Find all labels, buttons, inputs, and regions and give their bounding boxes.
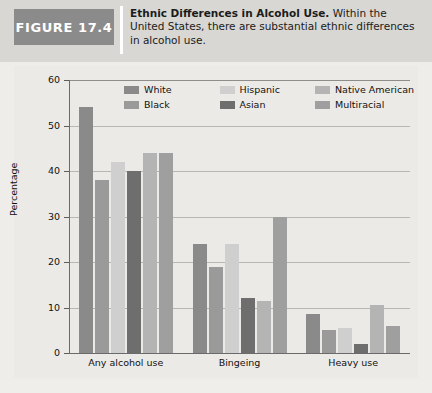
figure-number-badge: FIGURE 17.4: [14, 9, 114, 45]
legend-label: Native American: [335, 84, 414, 95]
bar-black: [322, 330, 336, 353]
y-axis-tick-label: 30: [34, 211, 60, 222]
bar-hispanic: [225, 244, 239, 353]
y-axis-tick-label: 0: [34, 347, 60, 358]
bar-multiracial: [386, 326, 400, 353]
bar-asian: [127, 171, 141, 353]
figure-header: FIGURE 17.4 Ethnic Differences in Alcoho…: [0, 0, 432, 62]
bar-black: [209, 267, 223, 353]
bar-multiracial: [159, 153, 173, 353]
figure-page: FIGURE 17.4 Ethnic Differences in Alcoho…: [0, 0, 432, 393]
caption-title: Ethnic Differences in Alcohol Use.: [130, 7, 329, 19]
bar-asian: [241, 298, 255, 353]
legend-item-hispanic: Hispanic: [220, 84, 314, 95]
y-axis-tick-label: 60: [34, 74, 60, 85]
legend-swatch: [220, 86, 235, 94]
legend-item-asian: Asian: [220, 99, 314, 110]
legend-item-black: Black: [124, 99, 218, 110]
legend-item-multiracial: Multiracial: [315, 99, 414, 110]
y-axis-tick-label: 40: [34, 165, 60, 176]
legend-swatch: [315, 86, 330, 94]
bar-group: [183, 80, 297, 353]
x-axis-label: Heavy use: [296, 357, 410, 368]
legend-item-white: White: [124, 84, 218, 95]
legend-item-native-american: Native American: [315, 84, 414, 95]
bar-group: [296, 80, 410, 353]
y-axis-tick-label: 10: [34, 302, 60, 313]
bar-native-american: [143, 153, 157, 353]
bar-native-american: [370, 305, 384, 353]
bar-asian: [354, 344, 368, 353]
bar-groups: [69, 80, 410, 353]
legend-swatch: [124, 101, 139, 109]
y-axis-tick-label: 20: [34, 256, 60, 267]
legend-label: Asian: [240, 99, 266, 110]
bar-hispanic: [338, 328, 352, 353]
legend-label: Black: [144, 99, 170, 110]
x-axis-label: Bingeing: [183, 357, 297, 368]
bar-white: [306, 314, 320, 353]
bar-multiracial: [273, 217, 287, 354]
bar-group: [69, 80, 183, 353]
footer-band: [0, 380, 432, 393]
y-axis-tick-label: 50: [34, 120, 60, 131]
bar-white: [193, 244, 207, 353]
plot-outer: Percentage 0102030405060 Any alcohol use…: [14, 66, 418, 378]
legend-swatch: [220, 101, 235, 109]
bar-black: [95, 180, 109, 353]
legend-label: Hispanic: [240, 84, 280, 95]
legend-label: Multiracial: [335, 99, 384, 110]
figure-caption: Ethnic Differences in Alcohol Use. Withi…: [130, 7, 422, 47]
figure-number-label: FIGURE 17.4: [15, 20, 112, 35]
bar-hispanic: [111, 162, 125, 353]
chart-legend: WhiteHispanicNative AmericanBlackAsianMu…: [124, 84, 414, 110]
bar-native-american: [257, 301, 271, 353]
header-divider: [120, 6, 123, 54]
chart-container: Percentage 0102030405060 Any alcohol use…: [14, 66, 418, 378]
legend-swatch: [124, 86, 139, 94]
bar-white: [79, 107, 93, 353]
x-axis-labels: Any alcohol useBingeingHeavy use: [69, 357, 410, 368]
legend-label: White: [144, 84, 172, 95]
plot-area: [69, 80, 410, 353]
y-axis-title: Percentage: [8, 163, 19, 216]
x-axis-label: Any alcohol use: [69, 357, 183, 368]
legend-swatch: [315, 101, 330, 109]
